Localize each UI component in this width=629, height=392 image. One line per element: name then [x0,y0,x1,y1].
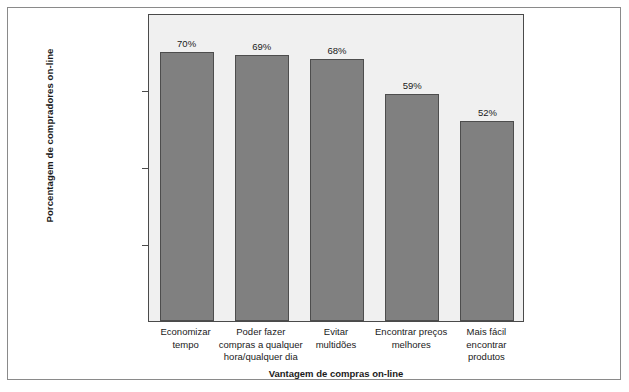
bar-slot: 59% [385,15,439,321]
x-axis-label: Economizartempo [143,326,227,351]
bar-value-label: 69% [235,41,289,52]
x-axis-title: Vantagem de compras on-line [148,368,524,379]
bar[interactable] [385,94,439,321]
bar[interactable] [235,55,289,321]
x-axis-label-line: encontrar [444,339,528,352]
x-axis-label-line: produtos [444,351,528,364]
plot-area: 70%69%68%59%52% [148,14,524,322]
y-axis-title: Porcentagem de compradores on-line [44,21,55,251]
chart-figure: Porcentagem de compradores on-line 0%20%… [0,0,629,392]
bar[interactable] [160,52,214,322]
bars-layer: 70%69%68%59%52% [149,15,523,321]
x-axis-label-line: Poder fazer [219,326,303,339]
x-axis-label-line: Evitar [294,326,378,339]
bar-slot: 52% [460,15,514,321]
x-axis-label: Mais fácilencontrarprodutos [444,326,528,364]
bar-value-label: 59% [385,80,439,91]
x-axis-label-line: hora/qualquer dia [219,351,303,364]
x-axis-label-line: Mais fácil [444,326,528,339]
x-axis-label: Evitarmultidões [294,326,378,351]
bar-slot: 68% [310,15,364,321]
x-axis-label-line: melhores [369,339,453,352]
x-axis-label-line: compras a qualquer [219,339,303,352]
bar-slot: 69% [235,15,289,321]
bar[interactable] [460,121,514,321]
x-axis-label: Poder fazercompras a qualquerhora/qualqu… [219,326,303,364]
bar[interactable] [310,59,364,321]
bar-value-label: 68% [310,45,364,56]
bar-value-label: 70% [160,38,214,49]
x-axis-label-line: multidões [294,339,378,352]
x-axis-label-line: tempo [143,339,227,352]
bar-slot: 70% [160,15,214,321]
x-axis-label-line: Economizar [143,326,227,339]
x-axis-label-line: Encontrar preços [369,326,453,339]
x-axis-label: Encontrar preçosmelhores [369,326,453,351]
bar-value-label: 52% [460,107,514,118]
